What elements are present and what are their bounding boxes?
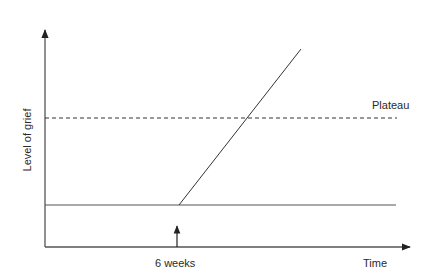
grief-diagram bbox=[0, 0, 433, 280]
x-axis-label: Time bbox=[363, 257, 387, 269]
six-weeks-label: 6 weeks bbox=[155, 257, 195, 269]
plateau-label: Plateau bbox=[372, 99, 409, 111]
y-axis-label: Level of grief bbox=[21, 109, 33, 172]
rise-line bbox=[179, 49, 301, 205]
